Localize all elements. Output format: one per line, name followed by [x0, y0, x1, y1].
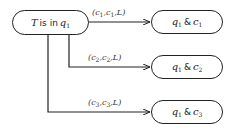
state-var: q1 [60, 17, 70, 29]
edge-label-2: (c2,c2,L) [88, 53, 121, 63]
edge-label-1: (c1,c1,L) [92, 8, 125, 18]
target-node-3: q1 & c3 [151, 100, 223, 124]
target-node-1: q1 & c1 [151, 10, 223, 34]
target-node-2: q1 & c2 [151, 55, 223, 79]
tape-var: T [31, 17, 38, 28]
source-state-node: T is in q1 [12, 10, 89, 35]
edge-label-3: (c3,c3,L) [88, 98, 121, 108]
source-text: is in [40, 18, 58, 28]
